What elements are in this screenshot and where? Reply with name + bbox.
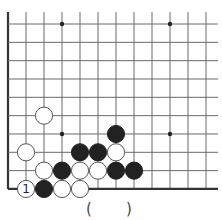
- stone-disc: [35, 162, 52, 179]
- go-board: 1: [0, 0, 222, 220]
- answer-close-paren: ): [126, 200, 132, 218]
- white-stone: 1: [17, 180, 34, 197]
- black-stone: [89, 144, 106, 161]
- answer-open-paren: (: [86, 200, 92, 218]
- white-stone: [71, 180, 88, 197]
- stone-disc: [35, 107, 52, 124]
- white-stone: [53, 180, 70, 197]
- white-stone: [35, 162, 52, 179]
- star-point: [60, 22, 64, 26]
- stone-disc: [53, 162, 70, 179]
- star-point: [60, 132, 64, 136]
- star-point: [168, 22, 172, 26]
- black-stone: [71, 144, 88, 161]
- stone-disc: [71, 180, 88, 197]
- black-stone: [125, 162, 142, 179]
- stone-disc: [107, 162, 124, 179]
- stone-disc: [71, 144, 88, 161]
- black-stone: [35, 180, 52, 197]
- star-point: [168, 132, 172, 136]
- white-stone: [17, 144, 34, 161]
- black-stone: [107, 162, 124, 179]
- stone-disc: [125, 162, 142, 179]
- black-stone: [53, 162, 70, 179]
- stone-disc: [17, 144, 34, 161]
- black-stone: [107, 125, 124, 142]
- white-stone: [35, 107, 52, 124]
- move-number-label: 1: [22, 182, 30, 196]
- white-stone: [71, 162, 88, 179]
- stone-disc: [35, 180, 52, 197]
- stone-disc: [53, 180, 70, 197]
- stone-disc: [89, 162, 106, 179]
- stone-disc: [71, 162, 88, 179]
- stone-disc: [107, 144, 124, 161]
- white-stone: [107, 144, 124, 161]
- stone-disc: [89, 144, 106, 161]
- stone-disc: [107, 125, 124, 142]
- white-stone: [89, 162, 106, 179]
